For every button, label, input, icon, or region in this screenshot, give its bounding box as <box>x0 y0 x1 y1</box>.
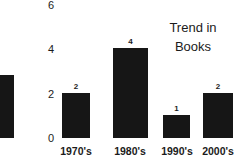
bar-value-1970s: 2 <box>62 83 90 91</box>
bar-chart-plot-area: 6 4 2 0 2 4 1 2 1970's 1980's 1990's 200… <box>0 0 240 161</box>
chart-title-line-1: Trend in <box>146 18 240 37</box>
y-tick-0: 0 <box>32 133 54 144</box>
bar-1980s <box>113 48 148 138</box>
x-tick-2000s: 2000's <box>198 146 238 157</box>
x-tick-1970s: 1970's <box>56 146 96 157</box>
bar-value-1980s: 4 <box>113 38 148 46</box>
chart-title-line-2: Books <box>146 37 240 56</box>
y-tick-2: 2 <box>32 89 54 100</box>
bar-1990s <box>163 115 190 138</box>
bar-value-1990s: 1 <box>163 105 190 113</box>
y-tick-6: 6 <box>32 0 54 11</box>
chart-screenshot: 6 4 2 0 2 4 1 2 1970's 1980's 1990's 200… <box>0 0 240 161</box>
chart-title: Trend in Books <box>146 18 240 56</box>
bar-1970s <box>62 93 90 138</box>
y-tick-4: 4 <box>32 44 54 55</box>
x-tick-1980s: 1980's <box>110 146 150 157</box>
bar-2000s <box>203 93 233 138</box>
x-tick-1990s: 1990's <box>157 146 197 157</box>
y-axis-tick-labels: 6 4 2 0 <box>30 0 54 161</box>
bar-clipped-left <box>0 75 14 138</box>
bar-value-2000s: 2 <box>203 83 233 91</box>
